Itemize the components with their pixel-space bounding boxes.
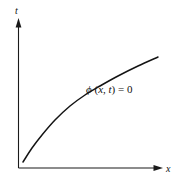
curve-equation-label: ϕ (x, t) = 0	[86, 84, 132, 95]
x-axis-label: x	[166, 164, 170, 174]
right-arrow-icon	[154, 165, 164, 171]
phi-curve	[23, 57, 158, 162]
value-zero: 0	[127, 83, 133, 95]
t-axis-label: t	[15, 6, 18, 16]
up-arrow-icon	[16, 18, 22, 28]
equals-sign: =	[118, 83, 127, 95]
figure-container: t x ϕ (x, t) = 0	[0, 0, 177, 180]
